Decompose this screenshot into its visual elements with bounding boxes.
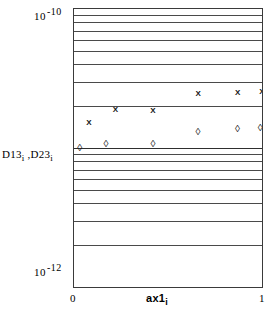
data-point-cross: X	[86, 117, 91, 126]
y-axis-max-exponent: -10	[47, 6, 62, 17]
grid-line	[74, 245, 262, 246]
grid-line	[74, 40, 262, 41]
grid-line	[74, 31, 262, 32]
y-axis-max-mantissa: 10	[34, 10, 46, 22]
x-axis-title: ax1i	[146, 292, 168, 307]
data-point-diamond: ◊	[258, 123, 263, 132]
grid-line	[74, 148, 262, 149]
grid-line	[74, 82, 262, 83]
x-axis-max-tick-label: 1	[259, 292, 265, 304]
grid-line	[74, 154, 262, 155]
x-axis-min-tick-label: 0	[70, 292, 76, 304]
grid-line	[74, 15, 262, 16]
data-point-diamond: ◊	[150, 139, 155, 148]
y-axis-title-series1: D13	[2, 148, 22, 160]
grid-line	[74, 203, 262, 204]
data-point-diamond: ◊	[196, 127, 201, 136]
grid-line	[74, 161, 262, 162]
data-point-cross: X	[113, 104, 118, 113]
grid-line	[74, 22, 262, 23]
grid-line	[74, 221, 262, 222]
data-point-cross: X	[235, 88, 240, 97]
grid-line	[74, 64, 262, 65]
y-axis-min-label: 10-12	[34, 262, 62, 278]
data-point-diamond: ◊	[77, 143, 82, 152]
y-axis-min-exponent: -12	[47, 262, 62, 273]
y-axis-title: D13i ,D23i	[2, 148, 53, 163]
plot-area: XXXXXX◊◊◊◊◊◊	[73, 8, 263, 288]
y-axis-title-series2-subscript: i	[50, 153, 53, 163]
grid-line	[74, 190, 262, 191]
data-point-cross: X	[195, 89, 200, 98]
y-axis-min-mantissa: 10	[34, 266, 46, 278]
data-point-cross: X	[150, 105, 155, 114]
grid-line	[74, 170, 262, 171]
x-axis-title-subscript: i	[165, 297, 168, 307]
grid-line	[74, 106, 262, 107]
grid-line	[74, 179, 262, 180]
grid-line	[74, 51, 262, 52]
data-point-diamond: ◊	[103, 139, 108, 148]
data-point-cross: X	[259, 87, 263, 96]
x-axis-title-text: ax1	[146, 292, 165, 304]
chart-screenshot: 10-10 10-12 D13i ,D23i XXXXXX◊◊◊◊◊◊ 0 1 …	[0, 0, 269, 320]
data-point-diamond: ◊	[235, 123, 240, 132]
y-axis-max-label: 10-10	[34, 6, 62, 22]
y-axis-title-series2: D23	[30, 148, 50, 160]
